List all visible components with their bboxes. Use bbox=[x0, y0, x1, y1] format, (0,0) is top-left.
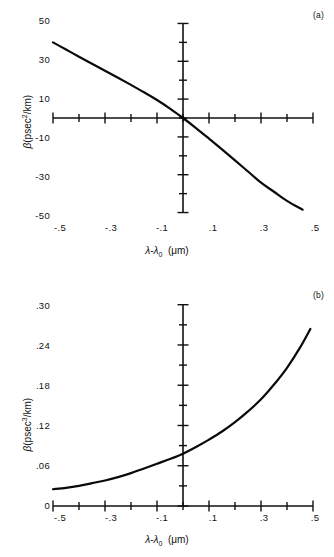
panel-b: (b) β(psec3/km) .30 .24 .18 .12 .06 0 -.… bbox=[0, 278, 334, 557]
figure-root: (a) β(psec2/km) 50 30 10 -10 -30 -50 -.5… bbox=[0, 0, 334, 557]
panel-b-plot bbox=[0, 278, 334, 557]
data-curve bbox=[53, 42, 303, 209]
panel-a-plot bbox=[0, 0, 334, 278]
panel-a: (a) β(psec2/km) 50 30 10 -10 -30 -50 -.5… bbox=[0, 0, 334, 278]
